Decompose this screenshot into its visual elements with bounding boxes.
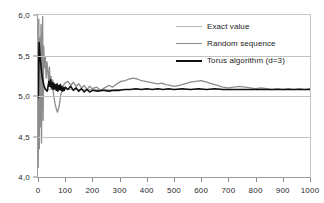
legend-item[interactable]: Random sequence (176, 35, 316, 52)
x-tick-mark (201, 178, 202, 182)
legend-item[interactable]: Torus algorithm (d=3) (176, 52, 316, 69)
x-tick-label: 200 (85, 186, 99, 195)
legend-label: Exact value (207, 22, 249, 31)
x-tick-mark (120, 178, 121, 182)
legend-label: Torus algorithm (d=3) (207, 56, 285, 65)
x-tick-mark (256, 178, 257, 182)
x-tick-mark (65, 178, 66, 182)
legend-label: Random sequence (207, 39, 276, 48)
y-tick-label: 6,0 (18, 11, 30, 20)
gridline-y (38, 96, 310, 97)
x-tick-mark (38, 178, 39, 182)
x-tick-mark (228, 178, 229, 182)
legend-swatch-icon (176, 43, 202, 44)
x-tick-label: 100 (58, 186, 72, 195)
chart-legend: Exact valueRandom sequenceTorus algorith… (176, 18, 316, 69)
x-tick-label: 1000 (301, 186, 320, 195)
x-tick-label: 700 (221, 186, 235, 195)
x-tick-label: 300 (113, 186, 127, 195)
x-tick-label: 400 (140, 186, 154, 195)
x-tick-label: 900 (276, 186, 290, 195)
x-tick-label: 0 (36, 186, 41, 195)
x-tick-mark (174, 178, 175, 182)
x-tick-label: 500 (167, 186, 181, 195)
x-axis: 01002003004005006007008009001000 (0, 178, 324, 203)
x-tick-mark (310, 178, 311, 182)
y-tick-label: 5,5 (18, 51, 30, 60)
legend-swatch-icon (176, 60, 202, 62)
x-tick-label: 800 (249, 186, 263, 195)
legend-item[interactable]: Exact value (176, 18, 316, 35)
y-axis: 4,04,55,05,56,0 (0, 0, 37, 203)
x-tick-mark (92, 178, 93, 182)
gridline-y (38, 137, 310, 138)
y-tick-label: 5,0 (18, 92, 30, 101)
x-tick-label: 600 (194, 186, 208, 195)
y-tick-label: 4,5 (18, 132, 30, 141)
x-tick-mark (147, 178, 148, 182)
x-tick-mark (283, 178, 284, 182)
legend-swatch-icon (176, 26, 202, 27)
convergence-chart: 4,04,55,05,56,0 010020030040050060070080… (0, 0, 324, 203)
